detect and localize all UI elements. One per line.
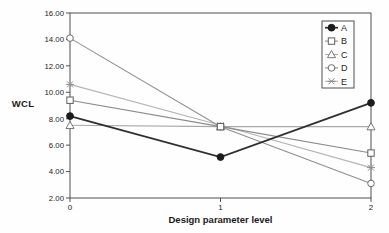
marker-filled-circle <box>328 24 335 31</box>
legend-label-D: D <box>341 63 348 73</box>
x-tick-label: 1 <box>218 203 223 212</box>
x-axis-title: Design parameter level <box>70 214 371 225</box>
y-tick-label: 10.00 <box>44 88 64 97</box>
marker-open-square <box>328 38 334 44</box>
wcl-line-chart: 16.0014.0012.0010.008.006.004.002.00012A… <box>0 0 389 233</box>
legend-label-A: A <box>341 23 347 33</box>
y-tick-label: 4.00 <box>49 167 65 176</box>
x-tick-label: 2 <box>369 203 374 212</box>
y-tick-label: 8.00 <box>49 115 65 124</box>
marker-open-square <box>67 97 73 103</box>
marker-filled-circle <box>217 154 224 161</box>
y-tick-label: 6.00 <box>49 141 65 150</box>
y-tick-label: 2.00 <box>49 194 65 203</box>
legend-label-C: C <box>341 50 348 60</box>
y-tick-label: 14.00 <box>44 35 64 44</box>
marker-open-circle <box>368 180 375 187</box>
chart-canvas: 16.0014.0012.0010.008.006.004.002.00012A… <box>0 0 389 233</box>
y-tick-label: 16.00 <box>44 9 64 18</box>
marker-filled-circle <box>368 99 375 106</box>
marker-filled-circle <box>67 113 74 120</box>
marker-open-square <box>217 123 223 129</box>
marker-open-circle <box>328 65 335 72</box>
y-tick-label: 12.00 <box>44 62 64 71</box>
y-axis-title: WCL <box>6 98 40 109</box>
legend-label-E: E <box>341 77 347 87</box>
marker-open-circle <box>67 35 74 42</box>
legend-label-B: B <box>341 36 347 46</box>
x-tick-label: 0 <box>68 203 73 212</box>
marker-open-square <box>368 150 374 156</box>
